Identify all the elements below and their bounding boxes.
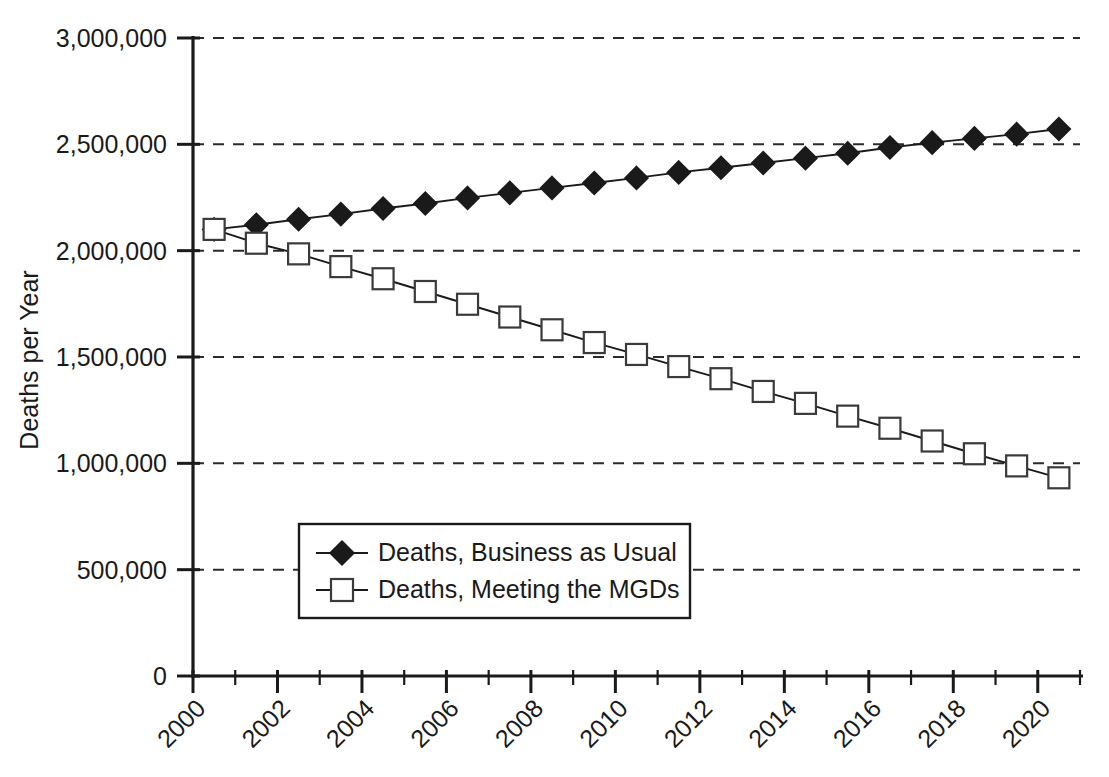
x-tick-label: 2008 xyxy=(489,694,548,753)
data-point-filled-diamond xyxy=(583,172,606,195)
data-point-filled-diamond xyxy=(498,181,521,204)
gridlines xyxy=(193,38,1080,570)
series-meeting-mgds xyxy=(204,219,1070,488)
data-point-filled-diamond xyxy=(541,176,564,199)
data-point-open-square xyxy=(710,368,731,389)
data-point-open-square xyxy=(753,381,774,402)
legend: Deaths, Business as Usual Deaths, Meetin… xyxy=(299,524,690,618)
y-axis-title: Deaths per Year xyxy=(15,270,43,449)
y-tick-label: 1,500,000 xyxy=(56,343,167,371)
data-point-filled-diamond xyxy=(667,161,690,184)
line-chart: 0500,0001,000,0001,500,0002,000,0002,500… xyxy=(0,0,1109,777)
data-point-open-square xyxy=(626,344,647,365)
x-axis: 2000200220042006200820102012201420162018… xyxy=(151,670,1083,753)
data-point-open-square xyxy=(415,281,436,302)
y-tick-label: 2,000,000 xyxy=(56,237,167,265)
data-point-filled-diamond xyxy=(456,186,479,209)
data-point-open-square xyxy=(373,268,394,289)
x-axis-tick-labels: 2000200220042006200820102012201420162018… xyxy=(151,694,1055,753)
open-square-icon xyxy=(331,579,353,601)
y-tick-label: 1,000,000 xyxy=(56,449,167,477)
x-tick-label: 2000 xyxy=(151,694,210,753)
y-axis: 0500,0001,000,0001,500,0002,000,0002,500… xyxy=(15,24,200,690)
x-tick-label: 2004 xyxy=(320,694,379,753)
data-point-open-square xyxy=(879,418,900,439)
y-tick-label: 3,000,000 xyxy=(56,24,167,52)
data-point-filled-diamond xyxy=(1005,123,1028,146)
data-point-filled-diamond xyxy=(372,197,395,220)
data-point-filled-diamond xyxy=(878,136,901,159)
series-business-as-usual xyxy=(203,118,1071,241)
x-axis-ticks xyxy=(193,670,1080,693)
data-point-filled-diamond xyxy=(329,203,352,226)
data-point-open-square xyxy=(922,431,943,452)
data-point-open-square xyxy=(330,256,351,277)
data-point-filled-diamond xyxy=(709,156,732,179)
data-point-filled-diamond xyxy=(625,166,648,189)
series-markers-meeting-mgds xyxy=(204,219,1070,488)
chart-container: 0500,0001,000,0001,500,0002,000,0002,500… xyxy=(0,0,1109,777)
data-point-open-square xyxy=(584,332,605,353)
x-tick-label: 2006 xyxy=(405,694,464,753)
legend-label-1: Deaths, Meeting the MGDs xyxy=(378,575,680,603)
data-point-open-square xyxy=(499,307,520,328)
x-tick-label: 2014 xyxy=(743,694,802,753)
y-tick-label: 500,000 xyxy=(77,556,167,584)
data-point-open-square xyxy=(795,393,816,414)
x-tick-label: 2012 xyxy=(658,694,717,753)
series-markers-business-as-usual xyxy=(203,118,1071,241)
data-point-filled-diamond xyxy=(1047,118,1070,141)
data-point-open-square xyxy=(1048,467,1069,488)
y-axis-tick-labels: 0500,0001,000,0001,500,0002,000,0002,500… xyxy=(56,24,167,690)
data-point-open-square xyxy=(1006,455,1027,476)
data-point-filled-diamond xyxy=(794,147,817,170)
data-point-open-square xyxy=(204,219,225,240)
x-tick-label: 2016 xyxy=(827,694,886,753)
y-axis-ticks xyxy=(177,38,200,676)
x-tick-label: 2018 xyxy=(912,694,971,753)
x-tick-label: 2010 xyxy=(574,694,633,753)
y-tick-label: 2,500,000 xyxy=(56,130,167,158)
data-point-filled-diamond xyxy=(963,127,986,150)
data-point-open-square xyxy=(542,319,563,340)
data-point-open-square xyxy=(246,233,267,254)
data-point-filled-diamond xyxy=(752,152,775,175)
x-tick-label: 2020 xyxy=(996,694,1055,753)
data-point-open-square xyxy=(668,356,689,377)
data-point-open-square xyxy=(288,243,309,264)
y-tick-label: 0 xyxy=(153,662,167,690)
data-point-open-square xyxy=(837,406,858,427)
data-point-filled-diamond xyxy=(287,208,310,231)
data-point-filled-diamond xyxy=(921,131,944,154)
legend-label-0: Deaths, Business as Usual xyxy=(378,538,677,566)
x-tick-label: 2002 xyxy=(236,694,295,753)
data-point-open-square xyxy=(457,294,478,315)
data-point-filled-diamond xyxy=(414,192,437,215)
data-point-open-square xyxy=(964,443,985,464)
